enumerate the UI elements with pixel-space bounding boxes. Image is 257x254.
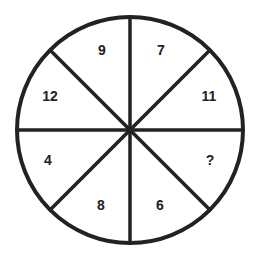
segment-label-bottom-right: 6 xyxy=(156,197,164,213)
segment-label-left-lower: 4 xyxy=(44,152,52,168)
segment-label-bottom-left: 8 xyxy=(97,197,105,213)
segment-label-right-lower-unknown: ? xyxy=(206,152,215,168)
segment-label-top-left: 9 xyxy=(98,42,106,58)
segment-label-right-upper: 11 xyxy=(202,88,217,104)
segment-label-top-right: 7 xyxy=(157,42,165,58)
number-wheel-diagram: 9 7 11 ? 6 8 4 12 xyxy=(0,0,257,254)
segment-label-left-upper: 12 xyxy=(42,88,58,104)
